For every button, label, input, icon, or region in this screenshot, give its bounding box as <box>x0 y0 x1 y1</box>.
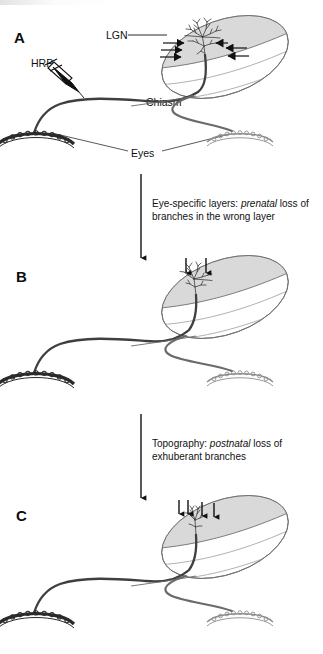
diagram-artwork <box>0 0 323 654</box>
figure-canvas: A B C LGN HRP Chiasm Eyes Eye-specific l… <box>0 0 323 654</box>
lgn-ellipse-c <box>133 464 314 599</box>
retina-right-b <box>207 371 273 386</box>
crossing-tract-c <box>165 576 232 611</box>
panel-a-artwork <box>0 0 315 151</box>
retina-left-b <box>0 371 74 388</box>
retina-left-a <box>0 131 74 148</box>
retina-right-a <box>207 131 273 146</box>
lgn-ellipse-b <box>133 224 314 359</box>
crossing-tract-a <box>172 96 232 131</box>
retina-right-c <box>207 611 273 626</box>
crossing-tract-b <box>165 336 232 371</box>
panel-b-artwork <box>0 224 315 388</box>
hrp-pipette-icon <box>45 59 84 98</box>
panel-c-artwork <box>0 464 315 628</box>
retina-left-c <box>0 611 74 628</box>
